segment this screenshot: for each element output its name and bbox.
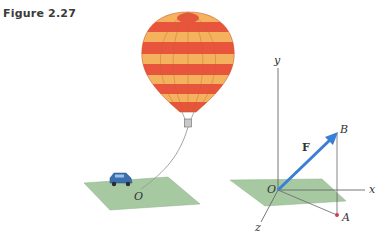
point-label-A: A (341, 211, 350, 224)
vector-label-F: F (302, 141, 310, 154)
left-panel: O (84, 10, 240, 210)
y-axis-label: y (273, 54, 281, 67)
figure-canvas: O y x z F B A O (0, 0, 391, 238)
point-A (335, 213, 339, 217)
z-axis-label: z (254, 221, 261, 234)
right-panel: y x z F B A O (230, 54, 376, 234)
hot-air-balloon (140, 10, 240, 127)
origin-label-left: O (134, 190, 143, 203)
point-label-B: B (339, 123, 348, 136)
origin-label-right: O (267, 183, 276, 196)
x-axis-label: x (369, 183, 376, 196)
xz-plane (230, 179, 346, 206)
balloon-basket (185, 119, 192, 127)
